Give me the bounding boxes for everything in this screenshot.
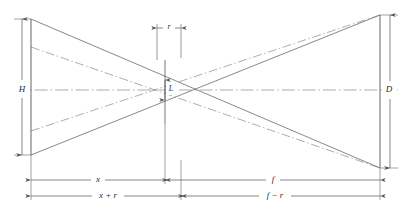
dimension-f-minus-r-label: f − r xyxy=(267,190,284,200)
optical-ray-diagram: H D L r x f xyxy=(0,0,408,212)
diagram-canvas: H D L r x f xyxy=(0,0,408,212)
dimension-H-label: H xyxy=(18,84,26,94)
dimension-L-label: L xyxy=(168,84,174,93)
dimension-D-label: D xyxy=(385,84,393,94)
dimension-x-plus-r-label: x + r xyxy=(98,190,118,200)
dimension-x-label: x xyxy=(95,174,100,184)
